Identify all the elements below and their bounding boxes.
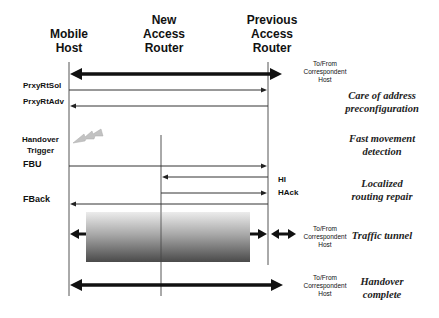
phase-localized-routing-repair: Localized routing repair [327, 177, 437, 203]
phase-text: Care of address [327, 89, 437, 102]
phase-text: Localized [327, 177, 437, 190]
header-text: Access [136, 27, 192, 41]
phase-text: routing repair [327, 190, 437, 203]
phase-text: Traffic tunnel [327, 229, 437, 242]
initial-traffic-arrow [70, 68, 282, 80]
corr-text: To/From [290, 60, 360, 68]
fback-arrow [70, 202, 268, 207]
fbu-arrow [69, 164, 267, 169]
phase-text: preconfiguration [327, 102, 437, 115]
tunnel-left-arrow [70, 229, 86, 239]
traffic-tunnel-box [86, 212, 250, 262]
header-text: Access [241, 27, 303, 41]
handover-sequence-diagram: Mobile Host New Access Router Previous A… [0, 0, 439, 318]
phase-text: Fast movement [327, 132, 437, 145]
phase-handover-complete: Handover complete [327, 275, 437, 301]
header-text: Mobile [46, 27, 92, 41]
prxyrtadv-arrow [70, 104, 268, 109]
phase-fast-movement-detection: Fast movement detection [327, 132, 437, 158]
label-handover-trigger: Handover Trigger [22, 134, 59, 156]
label-prxyrtsol: PrxyRtSol [23, 81, 61, 90]
label-fbu: FBU [23, 159, 42, 169]
phase-text: Handover [327, 275, 437, 288]
header-previous-access-router: Previous Access Router [241, 13, 303, 55]
phase-text: detection [327, 145, 437, 158]
label-text: Trigger [22, 145, 59, 156]
correspondent-label-top: To/From Correspondent Host [290, 60, 360, 84]
handover-complete-arrow [70, 279, 283, 291]
tunnel-right-arrow [250, 229, 267, 239]
hi-arrow [162, 175, 268, 180]
label-fback: FBack [23, 194, 50, 204]
corr-text: Host [290, 76, 360, 84]
header-text: Router [241, 41, 303, 55]
header-text: Previous [241, 13, 303, 27]
tunnel-correspondent-double-arrow [271, 229, 290, 239]
prxyrtsol-arrow [69, 88, 267, 93]
phase-care-of-address: Care of address preconfiguration [327, 89, 437, 115]
phase-traffic-tunnel: Traffic tunnel [327, 229, 437, 242]
corr-text: Correspondent [290, 68, 360, 76]
label-hi: HI [278, 175, 286, 184]
header-text: Host [46, 41, 92, 55]
corr-text: Host [290, 241, 360, 249]
header-new-access-router: New Access Router [136, 13, 192, 55]
hack-arrow [161, 191, 267, 196]
lightning-icon [73, 129, 103, 143]
header-text: New [136, 13, 192, 27]
header-mobile-host: Mobile Host [46, 27, 92, 55]
label-text: Handover [22, 134, 59, 145]
header-text: Router [136, 41, 192, 55]
label-hack: HAck [278, 188, 298, 197]
phase-text: complete [327, 288, 437, 301]
label-prxyrtadv: PrxyRtAdv [23, 97, 64, 106]
